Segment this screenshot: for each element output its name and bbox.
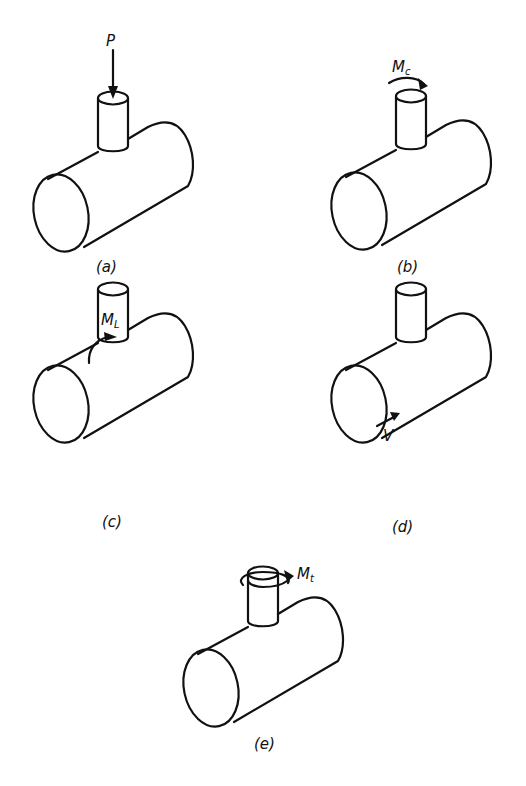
panel-c: ML (c) <box>26 283 193 532</box>
circumferential-moment-arrow-icon <box>389 78 428 90</box>
load-label-v: V <box>383 427 395 445</box>
caption-b: (b) <box>397 258 418 276</box>
load-label-mc: Mc <box>392 58 411 77</box>
load-label-p: P <box>106 32 116 50</box>
pipe-tee-d <box>324 283 491 448</box>
pipe-tee-c <box>26 283 193 448</box>
longitudinal-moment-arrow-icon <box>89 332 117 363</box>
caption-e: (e) <box>254 735 275 753</box>
caption-c: (c) <box>102 513 122 531</box>
caption-d: (d) <box>392 518 413 536</box>
load-label-mt: Mt <box>297 565 315 584</box>
pipe-tee-load-diagrams: P (a) Mc (b) ML (c) V (d) <box>0 0 526 786</box>
panel-a: P (a) <box>26 32 193 276</box>
load-label-ml: ML <box>101 311 120 330</box>
caption-a: (a) <box>96 258 117 276</box>
pipe-tee-b <box>324 90 491 255</box>
panel-e: Mt (e) <box>176 565 343 753</box>
panel-d: V (d) <box>324 283 491 537</box>
pipe-tee-e <box>176 567 343 732</box>
panel-b: Mc (b) <box>324 58 491 276</box>
shear-force-arrow-icon <box>377 412 400 426</box>
pipe-tee-a <box>26 92 193 257</box>
